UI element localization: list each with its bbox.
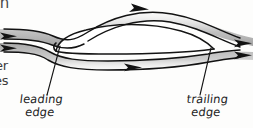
trailing-edge-label-line2: edge bbox=[185, 107, 228, 119]
trailing-edge-label-line1: trailing bbox=[186, 92, 229, 106]
margin-text-fragment-middle: er bbox=[0, 59, 8, 72]
trailing-edge-label: trailing edge bbox=[185, 94, 229, 118]
margin-text-fragment-lower: es bbox=[0, 74, 8, 87]
margin-text-fragment-top: in bbox=[0, 0, 9, 11]
figure-canvas: in er es leading edge trailing edge bbox=[0, 0, 253, 128]
upper-surface-flow-arrow bbox=[129, 4, 149, 13]
leading-edge-label: leading edge bbox=[18, 94, 64, 118]
airfoil-body bbox=[57, 26, 213, 54]
leading-edge-label-line2: edge bbox=[18, 107, 63, 119]
leading-edge-label-line1: leading bbox=[19, 92, 64, 106]
